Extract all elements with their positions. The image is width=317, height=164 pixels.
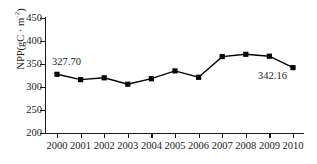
data-point-2003 [125, 82, 130, 87]
data-point-2010 [290, 65, 295, 70]
data-point-2009 [267, 54, 272, 59]
npp-line-chart: NPP(gC · m-2) 450 400 350 300 250 200 20… [0, 0, 317, 164]
data-point-2000 [54, 72, 59, 77]
data-point-2004 [149, 76, 154, 81]
data-point-2008 [243, 52, 248, 57]
data-point-2002 [102, 75, 107, 80]
data-point-2005 [172, 68, 177, 73]
data-label-2000: 327.70 [52, 56, 81, 67]
data-point-2006 [196, 75, 201, 80]
data-point-2001 [78, 77, 83, 82]
data-point-2007 [220, 54, 225, 59]
data-label-2010: 342.16 [258, 70, 287, 81]
series-plot-layer [0, 0, 317, 164]
